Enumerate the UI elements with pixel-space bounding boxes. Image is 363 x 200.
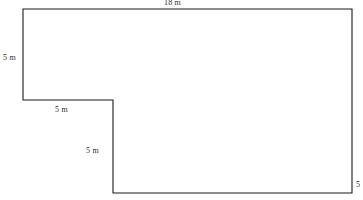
dimension-label-notch-vertical: 5 m (86, 146, 99, 156)
diagram-canvas: 18 m 5 m 5 m 5 m 5 (0, 0, 363, 200)
dimension-label-clipped-right-edge: 5 (356, 180, 363, 190)
dimension-label-top: 18 m (164, 0, 181, 8)
l-shaped-polygon-svg (0, 0, 363, 200)
dimension-label-middle-horizontal: 5 m (55, 105, 68, 115)
l-shape-outline (23, 9, 352, 193)
dimension-label-left: 5 m (3, 53, 16, 63)
